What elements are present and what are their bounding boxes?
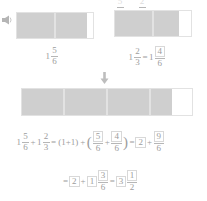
fraction: 5 6 (51, 46, 58, 66)
numerator: 5 (51, 46, 58, 55)
plus-sign: + (80, 177, 87, 186)
whole-answer-box[interactable]: 2 (69, 176, 80, 187)
bar-cell-fill (108, 89, 149, 115)
speaker-icon[interactable] (2, 11, 13, 21)
whole-answer-box[interactable]: 2 (135, 137, 146, 148)
equals-sign: = (50, 138, 57, 147)
whole-number-group: (1+1) (57, 138, 79, 147)
denominator: 6 (95, 144, 102, 153)
bar-cell (107, 88, 150, 116)
fraction: 2 3 (134, 47, 141, 67)
plus-sign: + (104, 138, 111, 147)
equals-sign: = (62, 177, 69, 186)
bar-cell (21, 88, 64, 116)
fraction-with-answer-box: 1 2 (127, 170, 138, 192)
whole-number: 1 (37, 138, 43, 147)
bar-cell-fill (115, 11, 152, 36)
down-arrow-icon (100, 70, 109, 82)
numerator: 5 (117, 0, 124, 6)
whole-number: 1 (16, 138, 22, 147)
bar-cell-fill (17, 13, 54, 38)
bar-cell-fill (56, 13, 87, 38)
sum-model (21, 88, 193, 116)
denominator: 3 (43, 143, 50, 152)
whole-number: 1 (128, 53, 134, 62)
numerator-answer-box[interactable]: 5 (93, 131, 104, 142)
second-addend-model (114, 10, 192, 37)
numerator-answer-box[interactable]: 4 (155, 46, 166, 57)
plus-sign: + (79, 138, 86, 147)
fraction: 5 6 (22, 132, 29, 152)
numerator-answer-box[interactable]: 3 (98, 170, 109, 181)
fraction-with-answer-box: 4 6 (111, 131, 122, 153)
denominator: 6 (51, 57, 58, 66)
plus-sign: + (146, 138, 153, 147)
plus-sign: + (30, 138, 37, 147)
fraction-with-answer-box: 5 6 (93, 131, 104, 153)
open-paren: ( (86, 136, 92, 148)
second-addend-label: 1 2 3 = 1 4 6 (128, 46, 166, 68)
fraction-with-answer-box: 9 6 (154, 131, 165, 153)
whole-number: 1 (45, 52, 51, 61)
denominator: 6 (157, 59, 164, 68)
bar-cell (153, 10, 192, 37)
result-whole-number: 1 (149, 53, 155, 62)
denominator: 3 (134, 58, 141, 67)
denominator: 6 (100, 183, 107, 192)
numerator: 5 (22, 132, 29, 141)
close-paren: ) (122, 136, 128, 148)
bar-cell (55, 12, 94, 39)
bar-cell-fill (151, 89, 172, 115)
whole-answer-box[interactable]: 1 (87, 176, 98, 187)
denominator: 6 (113, 144, 120, 153)
equation-line-1: 1 5 6 + 1 2 3 = (1+1) + ( 5 6 + 4 6 ) = … (16, 131, 165, 153)
result-fraction: 4 6 (155, 46, 166, 68)
equals-sign: = (109, 177, 116, 186)
bar-cell-fill (154, 11, 179, 36)
bar-cell-fill (22, 89, 63, 115)
numerator-answer-box[interactable]: 9 (154, 131, 165, 142)
whole-answer-box[interactable]: 3 (116, 176, 127, 187)
equals-sign: = (128, 138, 135, 147)
bar-cell-fill (65, 89, 106, 115)
denominator: 6 (156, 144, 163, 153)
equals-sign: = (142, 53, 149, 62)
numerator: 2 (139, 0, 146, 6)
numerator-answer-box[interactable]: 4 (111, 131, 122, 142)
fraction: 2 3 (43, 132, 50, 152)
bar-cell (64, 88, 107, 116)
bar-cell (150, 88, 193, 116)
numerator: 2 (134, 47, 141, 56)
first-addend-label: 1 5 6 (45, 46, 59, 66)
denominator: 6 (22, 143, 29, 152)
bar-cell (16, 12, 55, 39)
numerator-answer-box[interactable]: 1 (127, 170, 138, 181)
first-addend-model (16, 12, 94, 39)
denominator: 2 (129, 183, 136, 192)
equation-line-2: = 2 + 1 3 6 = 3 1 2 (62, 170, 138, 192)
numerator: 2 (43, 132, 50, 141)
fraction-with-answer-box: 3 6 (98, 170, 109, 192)
bar-cell (114, 10, 153, 37)
